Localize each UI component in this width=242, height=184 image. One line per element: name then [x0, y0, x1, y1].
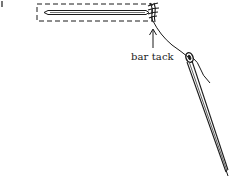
arrow-up-icon — [150, 29, 157, 48]
bar-tack-label: bar tack — [131, 51, 174, 62]
sewing-diagram — [0, 0, 242, 184]
needle-icon — [185, 52, 228, 176]
